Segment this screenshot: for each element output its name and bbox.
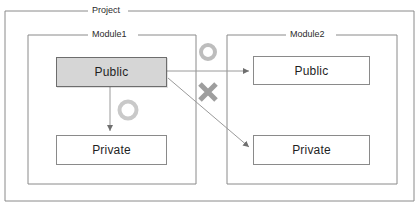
group-label-project: Project xyxy=(88,6,124,15)
node-module1-public-label: Public xyxy=(95,65,129,79)
group-label-module2: Module2 xyxy=(286,30,329,39)
node-module2-private[interactable]: Private xyxy=(253,135,370,165)
denied-cross-icon xyxy=(200,84,216,100)
group-label-module1: Module1 xyxy=(88,30,131,39)
node-module2-public[interactable]: Public xyxy=(253,56,370,85)
node-module2-private-label: Private xyxy=(292,143,331,157)
diagram-vector-layer xyxy=(0,0,419,209)
group-frame-project xyxy=(5,11,414,201)
node-module2-public-label: Public xyxy=(295,64,329,78)
node-module1-private-label: Private xyxy=(92,143,131,157)
allowed-circle-icon-cross-module xyxy=(201,45,215,59)
node-module1-public[interactable]: Public xyxy=(56,57,167,87)
node-module1-private[interactable]: Private xyxy=(56,135,167,165)
allowed-circle-icon-internal xyxy=(120,102,137,119)
diagram-canvas: Project Module1 Module2 Public Private P… xyxy=(0,0,419,209)
